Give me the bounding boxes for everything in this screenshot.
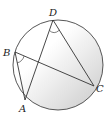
circle-diagram: D B A C — [0, 0, 107, 123]
label-A: A — [18, 103, 26, 114]
label-D: D — [48, 7, 57, 18]
label-B: B — [2, 47, 10, 58]
label-C: C — [96, 83, 104, 94]
